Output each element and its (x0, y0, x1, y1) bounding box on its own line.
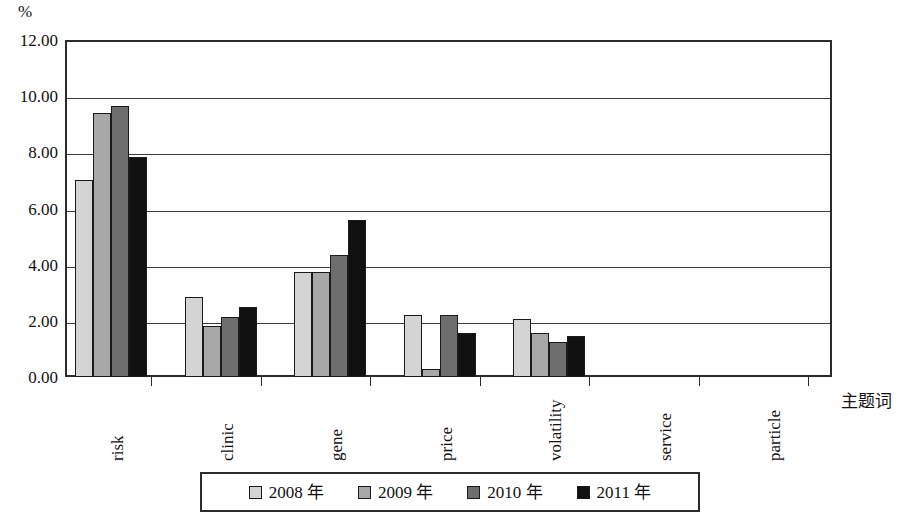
y-axis-tick-label: 12.00 (0, 32, 58, 49)
x-axis-tick (699, 377, 700, 386)
gridline (67, 267, 830, 268)
x-axis-tick (480, 377, 481, 386)
y-axis-tick-label: 0.00 (0, 369, 58, 386)
y-axis-tick-labels: 12.0010.008.006.004.002.000.00 (0, 40, 58, 377)
x-axis-tick (589, 377, 590, 386)
legend: 2008 年2009 年2010 年2011 年 (200, 472, 700, 512)
gridline (67, 154, 830, 155)
x-axis-tick (151, 377, 152, 386)
x-axis-category-label-text: service (657, 413, 674, 461)
legend-item-label: 2010 年 (487, 484, 542, 501)
x-axis-tick (261, 377, 262, 386)
gridline (67, 98, 830, 99)
x-axis-tick (370, 377, 371, 386)
gridline (67, 211, 830, 212)
legend-item-label: 2008 年 (269, 484, 324, 501)
legend-item: 2010 年 (467, 484, 542, 501)
legend-item: 2009 年 (358, 484, 433, 501)
legend-item: 2011 年 (577, 484, 652, 501)
legend-swatch-2008 (249, 486, 262, 499)
legend-swatch-2009 (358, 486, 371, 499)
legend-swatch-2011 (577, 486, 590, 499)
x-axis-category-label-text: price (438, 427, 455, 461)
x-axis-tick (808, 377, 809, 386)
bar-chart: % 12.0010.008.006.004.002.000.00 riskcli… (0, 0, 905, 513)
legend-swatch-2010 (467, 486, 480, 499)
legend-item: 2008 年 (249, 484, 324, 501)
x-axis-category-label-text: particle (766, 410, 783, 461)
x-axis-category-label-text: risk (109, 436, 126, 462)
y-axis-tick-label: 6.00 (0, 201, 58, 218)
x-axis-category-label-text: gene (328, 429, 345, 461)
legend-item-label: 2011 年 (597, 484, 652, 501)
y-axis-tick-label: 8.00 (0, 144, 58, 161)
y-axis-tick-label: 4.00 (0, 257, 58, 274)
legend-item-label: 2009 年 (378, 484, 433, 501)
plot-area (65, 40, 832, 377)
x-axis-category-label-text: volatility (547, 400, 564, 461)
y-axis-unit-label: % (18, 2, 32, 22)
y-axis-tick-label: 2.00 (0, 313, 58, 330)
x-axis-title: 主题词 (841, 392, 892, 412)
gridline (67, 323, 830, 324)
x-axis-category-label-text: clinic (219, 423, 236, 461)
y-axis-tick-label: 10.00 (0, 88, 58, 105)
